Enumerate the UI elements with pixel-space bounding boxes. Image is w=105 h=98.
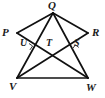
vertex-label-W: W [86,82,96,93]
geometry-figure: P Q R V W U T S [0,0,105,98]
vertex-label-Q: Q [48,0,56,11]
right-angle-at-U [29,44,33,50]
vertex-label-P: P [2,27,9,38]
intersection-label-S: S [74,38,80,48]
vertex-label-R: R [92,27,99,38]
vertex-label-V: V [9,81,16,92]
intersection-label-T: T [46,38,52,48]
intersection-label-U: U [20,38,27,48]
